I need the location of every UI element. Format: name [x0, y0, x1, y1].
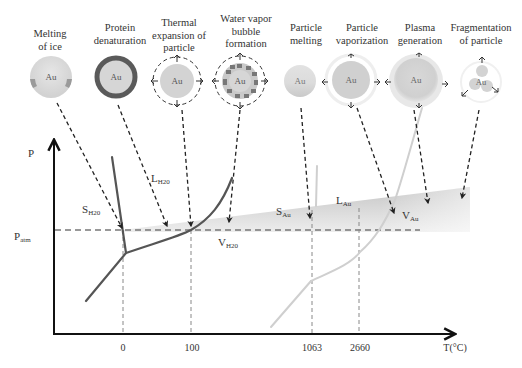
arrow-water-vapor-bubble: [229, 110, 240, 222]
water-sublimation-curve: [86, 253, 126, 301]
x-tick-2660: 2660: [350, 342, 370, 353]
x-tick-1063: 1063: [302, 342, 322, 353]
fragment-arrow-down-right: [492, 87, 498, 92]
label-sub: Au: [410, 215, 419, 223]
particle-label: Au: [172, 76, 183, 86]
water-melting-curve: [112, 157, 126, 253]
label-s-h2o: SH20: [82, 203, 100, 217]
x-axis-label: T(°C): [443, 342, 466, 353]
phase-diagram-figure: Melting of ice Protein denaturation Ther…: [0, 0, 522, 368]
label-v-au: VAu: [402, 209, 419, 223]
p-atm-sub: atm: [20, 236, 31, 244]
particle-vaporization-icon: Au: [322, 54, 380, 108]
particle-label: Au: [411, 75, 422, 85]
particle-label: Au: [111, 72, 122, 82]
expand-arrow-left: [151, 78, 158, 84]
label-l-h2o: LH20: [151, 172, 170, 186]
particle-thermal-expansion-icon: Au: [151, 55, 203, 107]
label-main: L: [151, 172, 158, 184]
arrow-particle-vaporization: [357, 108, 394, 213]
arrow-fragmentation: [462, 110, 479, 198]
gold-sublimation-curve: [271, 281, 311, 327]
particle-melting-of-ice-icon: Au: [30, 56, 72, 98]
label-main: V: [402, 209, 410, 221]
expand-arrow-up: [174, 55, 180, 62]
expand-arrow-down: [174, 100, 180, 107]
y-axis-label: P: [28, 147, 34, 159]
x-tick-0: 0: [121, 342, 126, 353]
label-sub: H20: [158, 178, 170, 186]
particle-label: Au: [476, 77, 487, 87]
x-tick-100: 100: [185, 342, 200, 353]
p-atm-label: Patm: [14, 230, 31, 244]
label-main: V: [218, 236, 226, 248]
label-main: L: [336, 194, 343, 206]
water-vaporization-curve: [126, 178, 232, 253]
gold-melting-curve: [316, 166, 317, 206]
arrow-thermal-expansion: [182, 110, 191, 226]
label-sub: Au: [343, 200, 352, 208]
particle-label: Au: [46, 72, 57, 82]
particle-plasma-generation-icon: Au: [385, 53, 448, 108]
particle-protein-denaturation-icon: Au: [97, 58, 135, 96]
label-l-au: LAu: [336, 194, 351, 208]
arrow-protein-denaturation: [118, 105, 167, 226]
expand-arrow-right: [196, 78, 203, 84]
particle-label: Au: [346, 75, 357, 85]
particle-fragmentation-icon: Au: [461, 57, 501, 102]
label-sub: H20: [226, 242, 238, 250]
arrow-plasma-generation: [414, 110, 428, 203]
label-v-h2o: VH20: [218, 236, 238, 250]
particle-water-vapor-bubble-icon: Au: [212, 53, 268, 109]
particle-label: Au: [295, 76, 306, 86]
particle-label: Au: [235, 76, 246, 86]
label-sub: Au: [282, 211, 291, 219]
label-sub: H20: [88, 209, 100, 217]
diagram-canvas: Au Au Au: [0, 0, 522, 368]
particle-melting-icon: Au: [284, 65, 316, 97]
arrow-particle-melting: [301, 108, 310, 218]
label-s-au: SAu: [276, 205, 291, 219]
